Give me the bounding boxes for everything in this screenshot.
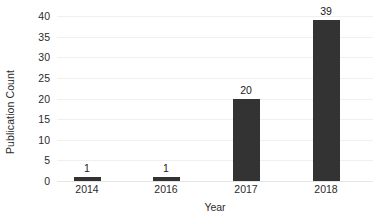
y-axis-tick-label: 40 — [38, 10, 50, 22]
y-axis-tick-label: 30 — [38, 51, 50, 63]
y-axis-tick-label: 25 — [38, 72, 50, 84]
bar-value-label: 1 — [84, 162, 90, 174]
y-axis-title: Publication Count — [0, 0, 20, 224]
y-axis-tick-label: 10 — [38, 134, 50, 146]
bar[interactable] — [233, 99, 260, 182]
y-axis-tick-label: 5 — [44, 154, 50, 166]
x-axis-tick-label: 2018 — [314, 183, 337, 195]
y-axis-tick-label: 35 — [38, 31, 50, 43]
x-axis-title: Year — [57, 201, 373, 213]
bar[interactable] — [74, 177, 101, 181]
gridline — [57, 181, 373, 182]
bar[interactable] — [313, 20, 340, 181]
bar-value-label: 20 — [240, 84, 252, 96]
bar-chart: Publication Count 0510152025303540112039… — [0, 0, 380, 224]
y-axis-tick-label: 0 — [44, 175, 50, 187]
x-axis-tick-label: 2016 — [154, 183, 177, 195]
bar-value-label: 39 — [320, 5, 332, 17]
bar-value-label: 1 — [163, 162, 169, 174]
x-axis-tick-label: 2014 — [75, 183, 98, 195]
x-axis-tick-label: 2017 — [234, 183, 257, 195]
y-axis-tick-label: 15 — [38, 113, 50, 125]
bar[interactable] — [153, 177, 180, 181]
y-axis-tick-label: 20 — [38, 93, 50, 105]
plot-area: 0510152025303540112039 — [57, 16, 373, 181]
